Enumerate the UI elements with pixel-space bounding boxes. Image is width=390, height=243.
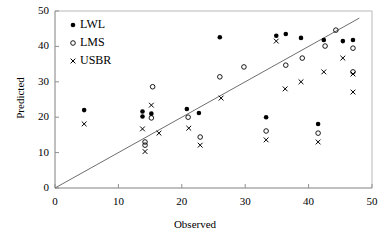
x-tick-label: 50 bbox=[352, 195, 390, 207]
data-point-lwl bbox=[341, 39, 346, 44]
x-axis-title: Observed bbox=[0, 218, 390, 230]
data-point-lms bbox=[218, 75, 223, 80]
legend-markers bbox=[71, 23, 76, 64]
data-point-lms bbox=[323, 44, 328, 49]
x-tick-label: 40 bbox=[289, 195, 329, 207]
data-point-lwl bbox=[316, 122, 321, 127]
data-point-lms bbox=[283, 63, 288, 68]
data-point-lwl bbox=[197, 111, 202, 116]
legend-marker-lwl bbox=[71, 23, 76, 28]
x-tick-label: 20 bbox=[162, 195, 202, 207]
data-point-lwl bbox=[274, 33, 279, 38]
legend-label-usbr: USBR bbox=[80, 53, 111, 68]
data-point-lms bbox=[351, 46, 356, 51]
data-point-lwl bbox=[283, 32, 288, 37]
y-axis-title: Predicted bbox=[14, 48, 26, 148]
data-point-lms bbox=[150, 84, 155, 89]
data-point-lwl bbox=[82, 108, 87, 113]
data-point-lms bbox=[316, 131, 321, 136]
data-point-lms bbox=[242, 65, 247, 70]
data-point-lwl bbox=[218, 35, 223, 40]
data-points-group bbox=[82, 28, 356, 154]
legend-label-lms: LMS bbox=[80, 35, 105, 50]
data-point-lwl bbox=[299, 36, 304, 41]
data-point-lwl bbox=[185, 107, 190, 112]
x-tick-label: 0 bbox=[35, 195, 75, 207]
scatter-chart-figure: 0102030405001020304050 LWLLMSUSBR Observ… bbox=[0, 0, 390, 243]
y-tick-label: 50 bbox=[9, 4, 49, 16]
x-tick-label: 10 bbox=[98, 195, 138, 207]
data-point-lwl bbox=[264, 115, 269, 120]
data-point-lms bbox=[186, 115, 191, 120]
legend-label-lwl: LWL bbox=[80, 17, 105, 32]
data-point-lms bbox=[300, 56, 305, 61]
legend-marker-lms bbox=[71, 41, 76, 46]
data-point-lwl bbox=[140, 109, 145, 114]
y-tick-label: 0 bbox=[9, 181, 49, 193]
data-point-lms bbox=[149, 116, 154, 121]
data-point-lwl bbox=[140, 114, 145, 119]
data-point-lms bbox=[143, 143, 148, 148]
x-tick-label: 30 bbox=[225, 195, 265, 207]
data-point-lms bbox=[264, 129, 269, 134]
data-point-lwl bbox=[351, 38, 356, 43]
data-point-lwl bbox=[322, 38, 327, 43]
data-point-lms bbox=[198, 135, 203, 140]
